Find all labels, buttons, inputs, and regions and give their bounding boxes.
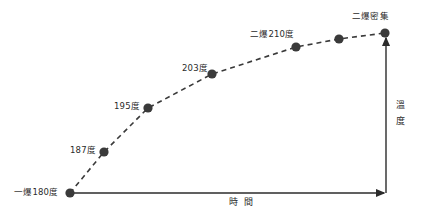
temperature-curve <box>70 33 385 193</box>
data-point-label-187: 187度 <box>70 146 96 155</box>
data-point-label-second-crack-210: 二爆210度 <box>250 30 294 39</box>
data-point <box>99 147 108 156</box>
roast-curve-chart <box>0 0 422 217</box>
data-point <box>143 103 152 112</box>
data-point <box>65 188 74 197</box>
data-point <box>291 42 300 51</box>
data-points <box>65 28 389 197</box>
y-axis-label: 溫 度 <box>395 100 404 127</box>
data-point <box>207 69 216 78</box>
data-point-label-second-crack-dense: 二爆密集 <box>352 12 389 21</box>
data-point <box>380 28 389 37</box>
roast-curve-figure: 一爆180度 187度 195度 203度 二爆210度 二爆密集 時 間 溫 … <box>0 0 422 217</box>
data-point-label-203: 203度 <box>182 64 208 73</box>
x-axis-label: 時 間 <box>229 198 254 207</box>
data-point-label-195: 195度 <box>114 102 140 111</box>
data-point-label-first-crack: 一爆180度 <box>14 188 58 197</box>
data-point <box>334 34 343 43</box>
